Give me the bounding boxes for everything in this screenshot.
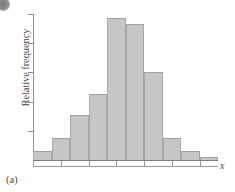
ink-blob-icon xyxy=(0,0,10,11)
panel-label: (a) xyxy=(6,174,18,185)
histogram-bar xyxy=(163,138,182,160)
x-axis-tick xyxy=(200,161,201,167)
y-axis-label: Relative frequency xyxy=(20,8,31,128)
plot-area xyxy=(33,14,218,160)
x-axis-label: x xyxy=(220,160,224,171)
histogram-bar xyxy=(70,115,89,160)
histogram-bar xyxy=(181,151,200,160)
histogram-figure: Relative frequency x (a) xyxy=(0,0,235,192)
histogram-bar xyxy=(144,72,163,160)
x-axis-tick xyxy=(172,161,173,167)
histogram-bar xyxy=(33,151,52,160)
histogram-bar xyxy=(52,138,71,160)
histogram-bar xyxy=(107,18,126,160)
histogram-bar xyxy=(200,157,219,160)
x-axis-tick xyxy=(61,161,62,167)
histogram-bar xyxy=(126,24,145,160)
histogram-bar xyxy=(89,94,108,160)
x-axis-tick xyxy=(89,161,90,167)
x-axis-tick xyxy=(116,161,117,167)
x-axis-tick xyxy=(33,161,34,167)
x-axis-tick xyxy=(144,161,145,167)
